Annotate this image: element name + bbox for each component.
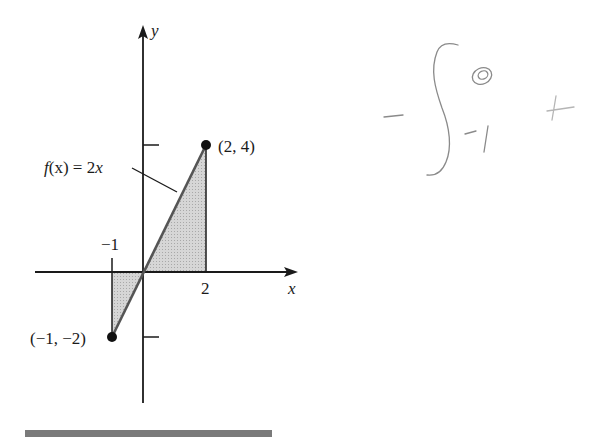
figure: y x −1 2 (2, 4) (−1, −2) f(x) = 2x — [0, 0, 609, 437]
graph-canvas — [0, 0, 609, 437]
point-label-2-4: (2, 4) — [218, 138, 255, 155]
handwritten-lower-limit-minus — [465, 131, 476, 134]
x-axis-label: x — [288, 280, 296, 297]
handwritten-integral-sign-icon — [427, 44, 458, 175]
function-label-x: x — [95, 158, 103, 177]
handwritten-plus — [547, 96, 574, 120]
point-2-4 — [201, 140, 211, 150]
handwritten-minus — [384, 115, 403, 117]
y-axis-label: y — [151, 22, 159, 39]
label-leader-line — [132, 168, 177, 192]
bottom-gray-bar — [25, 430, 272, 437]
handwritten-annotation — [384, 44, 574, 175]
handwritten-upper-limit-0 — [470, 65, 495, 88]
function-label-body: (x) = 2 — [49, 158, 95, 177]
x-tick-label-2: 2 — [201, 280, 210, 297]
point-label-neg1-neg2: (−1, −2) — [30, 330, 86, 347]
point-neg1-neg2 — [107, 332, 117, 342]
function-label: f(x) = 2x — [44, 159, 103, 176]
x-tick-label-neg1: −1 — [101, 236, 119, 253]
handwritten-lower-limit-1 — [484, 126, 488, 152]
